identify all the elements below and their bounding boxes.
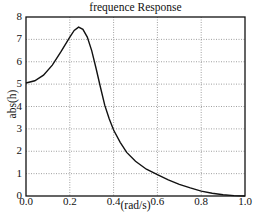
- y-tick-label: 7: [12, 33, 22, 44]
- y-tick-label: 2: [12, 145, 22, 156]
- y-tick-label: 8: [12, 11, 22, 22]
- y-tick-label: 3: [12, 123, 22, 134]
- y-tick-label: 4: [12, 101, 22, 112]
- response-curve: [26, 27, 245, 196]
- x-tick-label: 0.4: [101, 195, 127, 207]
- x-tick-label: 0.6: [144, 195, 170, 207]
- y-tick-label: 5: [12, 78, 22, 89]
- y-tick-label: 1: [12, 168, 22, 179]
- frequency-response-chart: [0, 0, 256, 212]
- chart-title: frequence Response: [26, 1, 245, 13]
- x-tick-label: 1.0: [232, 195, 256, 207]
- x-tick-label: 0.2: [57, 195, 83, 207]
- x-tick-label: 0.0: [13, 195, 39, 207]
- x-tick-label: 0.8: [188, 195, 214, 207]
- grid-lines: [26, 17, 245, 196]
- y-tick-label: 6: [12, 56, 22, 67]
